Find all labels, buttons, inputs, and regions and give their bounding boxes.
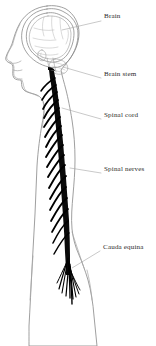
label-brain-stem: Brain stem — [104, 70, 136, 78]
label-spinal-nerves: Spinal nerves — [104, 165, 144, 173]
label-cauda-equina: Cauda equina — [103, 243, 144, 251]
anatomy-illustration — [0, 0, 156, 346]
label-brain: Brain — [104, 12, 121, 20]
body-silhouette — [6, 6, 97, 346]
leader-brain-stem — [63, 67, 101, 78]
label-spinal-cord: Spinal cord — [104, 111, 138, 119]
nervous-system-figure: Brain Brain stem Spinal cord Spinal nerv… — [0, 0, 156, 346]
